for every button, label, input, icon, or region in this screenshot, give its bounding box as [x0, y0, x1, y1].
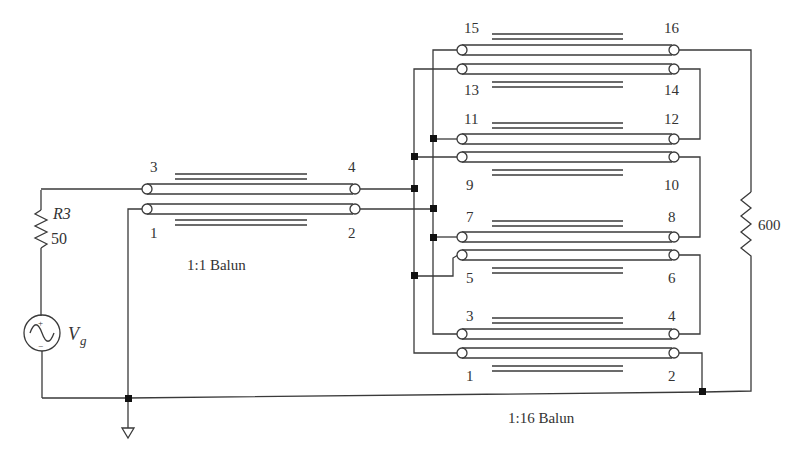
balun-1-16-pin-7: 7: [466, 209, 474, 225]
balun-1-16-pin-13: 13: [464, 82, 479, 98]
balun-1-16-pin-4: 4: [668, 308, 676, 324]
balun-1-16-caption: 1:16 Balun: [508, 410, 575, 426]
r3-value-label: 50: [51, 230, 67, 247]
load-resistor-value: 600: [758, 217, 781, 233]
balun-1-16-pin-15: 15: [464, 20, 479, 36]
balun-1-16-pin-6: 6: [668, 270, 676, 286]
balun-1-16-pin-9: 9: [466, 177, 474, 193]
balun-1-1-pin-3: 3: [150, 159, 158, 175]
balun-1-16-coax: [457, 34, 679, 371]
balun-1-16-pin-10: 10: [664, 177, 679, 193]
balun-1-1-pin-4: 4: [348, 159, 356, 175]
source-plus-sign: +: [38, 318, 43, 328]
ground-icon: [122, 428, 134, 438]
source-wires: [24, 189, 751, 438]
balun-1-16-pin-14: 14: [664, 82, 680, 98]
balun-1-16-pin-12: 12: [664, 111, 679, 127]
balun-1-16-pin-8: 8: [668, 209, 676, 225]
balun-1-16-pin-5: 5: [466, 270, 474, 286]
balun-1-1-caption: 1:1 Balun: [187, 257, 246, 273]
r3-resistor-icon: [35, 210, 47, 248]
balun-schematic: R3 50 + − V g 3 4 1 2 1:1 Balun 15 16 13…: [0, 0, 809, 460]
balun-1-16-right-loops: [679, 50, 751, 392]
source-minus-sign: −: [38, 341, 43, 351]
load-resistor-icon: [741, 192, 751, 270]
balun-1-16-buses: [414, 50, 458, 353]
balun-1-16-pin-3: 3: [466, 308, 474, 324]
balun-1-1-coax: [142, 174, 433, 225]
schematic-drawing: R3 50 + − V g 3 4 1 2 1:1 Balun 15 16 13…: [0, 0, 809, 460]
balun-1-16-pin-1: 1: [466, 368, 474, 384]
balun-1-16-pin-2: 2: [668, 368, 676, 384]
balun-1-16-pin-16: 16: [664, 20, 680, 36]
balun-1-1-pin-1: 1: [150, 225, 158, 241]
balun-1-16-pin-11: 11: [464, 111, 478, 127]
r3-name-label: R3: [52, 205, 71, 222]
balun-1-1-pin-2: 2: [348, 225, 356, 241]
generator-subscript: g: [80, 333, 87, 348]
